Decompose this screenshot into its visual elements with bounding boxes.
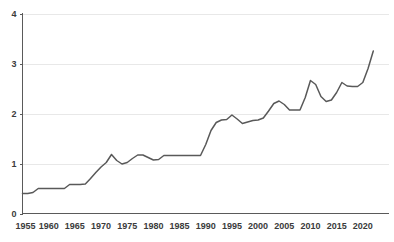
y-tick-label: 1 xyxy=(11,159,16,169)
x-tick-label: 2010 xyxy=(300,221,320,231)
x-tick-label: 2020 xyxy=(353,221,373,231)
x-tick-label: 2015 xyxy=(327,221,347,231)
x-tick-label: 1965 xyxy=(65,221,85,231)
x-tick-label: 2005 xyxy=(274,221,294,231)
x-tick-label: 1990 xyxy=(196,221,216,231)
series-line-1 xyxy=(23,51,374,194)
x-tick-label: 1980 xyxy=(143,221,163,231)
x-tick-label: 1995 xyxy=(222,221,242,231)
line-chart: 01234 1955196019651970197519801985199019… xyxy=(0,0,394,242)
x-tick-label: 1960 xyxy=(39,221,59,231)
x-tick-label: 1975 xyxy=(117,221,137,231)
gridlines xyxy=(23,15,390,165)
y-tick-label: 0 xyxy=(11,209,16,219)
chart-container: 01234 1955196019651970197519801985199019… xyxy=(0,0,394,242)
y-tick-label: 3 xyxy=(11,59,16,69)
y-tick-label: 4 xyxy=(11,9,16,19)
x-tick-label: 1985 xyxy=(170,221,190,231)
x-tick-label: 2000 xyxy=(248,221,268,231)
y-axis-labels: 01234 xyxy=(11,9,16,219)
x-tick-label: 1955 xyxy=(15,221,35,231)
y-tick-label: 2 xyxy=(11,109,16,119)
x-tick-label: 1970 xyxy=(91,221,111,231)
x-axis-labels: 1955196019651970197519801985199019952000… xyxy=(15,221,372,231)
